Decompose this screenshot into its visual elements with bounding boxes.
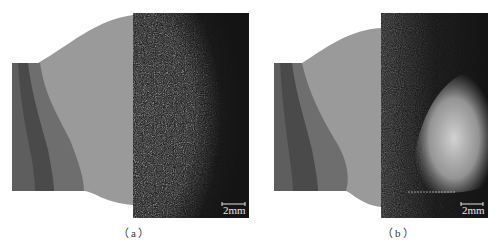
scale-bar-label-a: 2mm: [223, 204, 246, 216]
panel-a: 2mm （a）: [0, 0, 250, 251]
panel-b: 2mm （b）: [250, 0, 497, 251]
caption-a: （a）: [118, 224, 151, 240]
caption-b: （b）: [382, 224, 416, 240]
weld-schematic-a: [0, 0, 250, 251]
scale-bar-label-b: 2mm: [462, 204, 485, 216]
weld-schematic-b: [250, 0, 497, 251]
